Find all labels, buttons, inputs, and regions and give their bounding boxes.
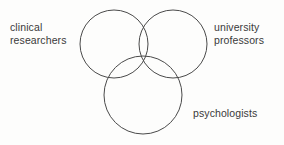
label-clinical-researchers-line1: clinical [10,21,67,34]
venn-diagram: clinical researchers university professo… [0,0,284,145]
label-psychologists: psychologists [193,107,257,120]
label-psychologists-line1: psychologists [193,107,257,120]
label-university-professors-line2: professors [214,34,264,47]
label-clinical-researchers-line2: researchers [10,34,67,47]
circle-clinical-researchers [80,10,148,78]
circle-university-professors [139,10,207,78]
label-clinical-researchers: clinical researchers [10,21,67,46]
label-university-professors: university professors [214,21,264,46]
circle-psychologists [104,56,182,134]
label-university-professors-line1: university [214,21,264,34]
